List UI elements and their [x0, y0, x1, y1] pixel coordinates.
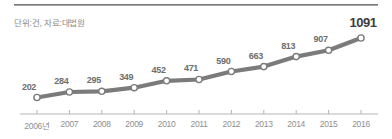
- data-point-marker: [34, 94, 40, 100]
- data-value-label: 471: [184, 63, 198, 73]
- series-line: [37, 38, 361, 98]
- data-value-label: 284: [54, 76, 68, 86]
- data-point-marker: [66, 89, 72, 95]
- data-point-marker: [99, 88, 105, 94]
- data-value-label: 813: [281, 41, 295, 51]
- x-axis-label: 2014: [287, 119, 305, 129]
- data-value-label: 590: [216, 56, 230, 66]
- x-axis-label: 2008: [93, 119, 111, 129]
- x-axis-label: 2007: [61, 119, 79, 129]
- data-value-label: 349: [119, 72, 133, 82]
- data-point-marker: [196, 76, 202, 82]
- data-value-label: 295: [87, 75, 101, 85]
- data-point-marker: [326, 47, 332, 53]
- data-value-label: 907: [314, 34, 328, 44]
- data-value-label-latest: 1091: [350, 15, 377, 30]
- x-axis-ticks: [37, 110, 361, 114]
- data-point-marker: [358, 35, 364, 41]
- data-value-label: 202: [22, 82, 36, 92]
- data-point-marker: [228, 68, 234, 74]
- data-point-marker: [164, 78, 170, 84]
- x-axis-label: 2011: [190, 119, 207, 129]
- x-axis-label: 2013: [255, 119, 273, 129]
- x-axis-label: 2010: [158, 119, 176, 129]
- axis-group: [20, 110, 378, 114]
- x-axis-label: 2015: [320, 119, 338, 129]
- data-point-marker: [131, 85, 137, 91]
- x-axis-label: 2009: [125, 119, 143, 129]
- data-value-label: 452: [152, 65, 166, 75]
- chart-container: 단위:건, 자료:대법원 202284295349452471590663813…: [0, 0, 392, 139]
- x-axis-label: 2016: [352, 119, 370, 129]
- data-point-marker: [261, 64, 267, 70]
- x-axis-label: 2012: [223, 119, 241, 129]
- data-point-marker: [293, 54, 299, 60]
- data-value-label: 663: [249, 51, 263, 61]
- x-axis-label: 2006년: [24, 119, 49, 131]
